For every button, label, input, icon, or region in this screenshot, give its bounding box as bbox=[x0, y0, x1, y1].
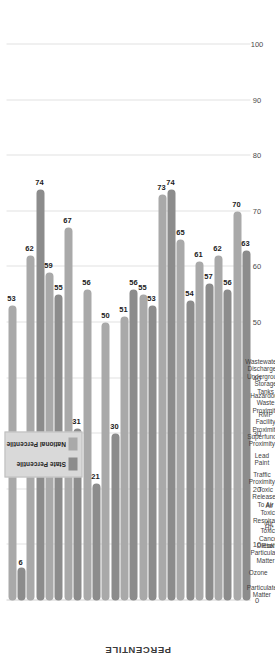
bar-group: 6157 bbox=[194, 44, 213, 600]
bar-national[interactable] bbox=[214, 255, 222, 600]
bar-slot: 62 bbox=[214, 44, 220, 600]
bar-national[interactable] bbox=[139, 294, 147, 600]
bar-slot: 53 bbox=[148, 44, 154, 600]
bar-value-label: 61 bbox=[194, 250, 203, 258]
bar-value-label: 50 bbox=[100, 311, 109, 319]
bar-group: 7374 bbox=[156, 44, 175, 600]
legend-swatch bbox=[68, 458, 77, 471]
bar-group: 6256 bbox=[212, 44, 231, 600]
bar-slot: 6 bbox=[17, 44, 23, 600]
bar-national[interactable] bbox=[120, 316, 128, 600]
bar-value-label: 70 bbox=[231, 199, 240, 207]
bar-value-label: 53 bbox=[6, 294, 15, 302]
bar-slot: 53 bbox=[8, 44, 14, 600]
bar-slot: 54 bbox=[186, 44, 192, 600]
bar-value-label: 74 bbox=[166, 177, 175, 185]
bar-value-label: 55 bbox=[138, 283, 147, 291]
bar-slot: 56 bbox=[223, 44, 229, 600]
bar-national[interactable] bbox=[158, 194, 166, 600]
bar-value-label: 67 bbox=[62, 216, 71, 224]
value-axis-title-text: PERCENTILE bbox=[104, 645, 170, 656]
bar-value-label: 57 bbox=[203, 272, 212, 280]
bar-value-label: 6 bbox=[16, 559, 25, 563]
bar-rows: 5366274595567315621503051565553737465546… bbox=[6, 44, 250, 600]
bar-state[interactable] bbox=[205, 283, 213, 600]
bar-slot: 59 bbox=[45, 44, 51, 600]
bar-state[interactable] bbox=[129, 289, 137, 600]
chart-canvas: PERCENTILE 1009080706050403020100 536627… bbox=[0, 0, 275, 663]
bar-state[interactable] bbox=[17, 567, 25, 600]
bar-national[interactable] bbox=[176, 239, 184, 600]
bar-slot: 65 bbox=[176, 44, 182, 600]
bar-state[interactable] bbox=[167, 189, 175, 600]
bar-group: 5156 bbox=[119, 44, 138, 600]
bar-value-label: 56 bbox=[222, 277, 231, 285]
bar-slot: 73 bbox=[158, 44, 164, 600]
bar-group: 5030 bbox=[100, 44, 119, 600]
bar-slot: 21 bbox=[92, 44, 98, 600]
legend-swatch bbox=[68, 438, 77, 451]
bar-value-label: 51 bbox=[119, 305, 128, 313]
bar-slot: 55 bbox=[139, 44, 145, 600]
chart-page: PERCENTILE 1009080706050403020100 536627… bbox=[0, 0, 275, 663]
bar-value-label: 65 bbox=[175, 227, 184, 235]
bar-state[interactable] bbox=[36, 189, 44, 600]
bar-national[interactable] bbox=[101, 322, 109, 600]
bar-national[interactable] bbox=[64, 227, 72, 600]
bar-national[interactable] bbox=[233, 211, 241, 600]
bar-value-label: 62 bbox=[213, 244, 222, 252]
bar-slot: 55 bbox=[54, 44, 60, 600]
bar-slot: 57 bbox=[205, 44, 211, 600]
bar-value-label: 74 bbox=[34, 177, 43, 185]
bar-slot: 56 bbox=[129, 44, 135, 600]
bar-group: 5553 bbox=[137, 44, 156, 600]
bar-value-label: 56 bbox=[128, 277, 137, 285]
bar-value-label: 73 bbox=[156, 183, 165, 191]
bar-value-label: 54 bbox=[184, 288, 193, 296]
chart-legend: State PercentileNational Percentile bbox=[4, 431, 82, 477]
bar-slot: 30 bbox=[111, 44, 117, 600]
bar-state[interactable] bbox=[148, 305, 156, 600]
bar-slot: 61 bbox=[195, 44, 201, 600]
bar-group: 6554 bbox=[175, 44, 194, 600]
legend-item[interactable]: National Percentile bbox=[5, 438, 77, 451]
bar-group: 6274 bbox=[25, 44, 44, 600]
bar-state[interactable] bbox=[186, 300, 194, 600]
bar-state[interactable] bbox=[111, 433, 119, 600]
bar-value-label: 53 bbox=[147, 294, 156, 302]
bar-slot: 50 bbox=[101, 44, 107, 600]
legend-item[interactable]: State Percentile bbox=[5, 458, 77, 471]
bar-value-label: 56 bbox=[81, 277, 90, 285]
bar-slot: 56 bbox=[83, 44, 89, 600]
bar-value-label: 63 bbox=[241, 238, 250, 246]
value-axis-title: PERCENTILE bbox=[0, 643, 275, 657]
legend-label: National Percentile bbox=[6, 441, 65, 448]
bar-group: 536 bbox=[6, 44, 25, 600]
bar-state[interactable] bbox=[92, 483, 100, 600]
bar-national[interactable] bbox=[195, 261, 203, 600]
plot-area: 5366274595567315621503051565553737465546… bbox=[6, 44, 250, 600]
bar-value-label: 55 bbox=[53, 283, 62, 291]
category-label: WastewaterDischarge bbox=[254, 342, 269, 388]
bar-slot: 74 bbox=[36, 44, 42, 600]
bar-value-label: 62 bbox=[25, 244, 34, 252]
bar-slot: 70 bbox=[233, 44, 239, 600]
bar-state[interactable] bbox=[223, 289, 231, 600]
bar-slot: 31 bbox=[73, 44, 79, 600]
bar-value-label: 31 bbox=[72, 416, 81, 424]
bar-value-label: 59 bbox=[44, 261, 53, 269]
bar-national[interactable] bbox=[83, 289, 91, 600]
bar-group: 5955 bbox=[44, 44, 63, 600]
bar-value-label: 21 bbox=[91, 472, 100, 480]
bar-slot: 74 bbox=[167, 44, 173, 600]
bar-value-label: 30 bbox=[109, 422, 118, 430]
bar-group: 5621 bbox=[81, 44, 100, 600]
legend-label: State Percentile bbox=[16, 461, 65, 468]
category-axis-labels: ParticulateMatterOzoneDieselParticulateM… bbox=[252, 44, 275, 600]
bar-slot: 62 bbox=[26, 44, 32, 600]
bar-group: 6731 bbox=[62, 44, 81, 600]
bar-slot: 67 bbox=[64, 44, 70, 600]
bar-national[interactable] bbox=[26, 255, 34, 600]
bar-slot: 51 bbox=[120, 44, 126, 600]
